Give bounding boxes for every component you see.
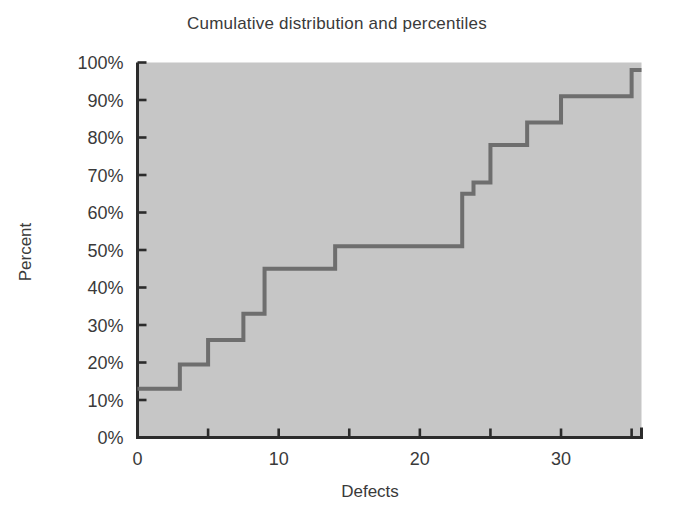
y-tick-label: 30% <box>87 316 123 336</box>
x-axis-title: Defects <box>341 482 399 501</box>
y-axis-title: Percent <box>16 222 35 281</box>
y-tick-label: 90% <box>87 91 123 111</box>
y-axis-tick-labels: 0%10%20%30%40%50%60%70%80%90%100% <box>77 53 123 448</box>
y-tick-label: 10% <box>87 391 123 411</box>
x-tick-label: 0 <box>132 449 142 469</box>
y-tick-label: 50% <box>87 241 123 261</box>
y-tick-label: 70% <box>87 166 123 186</box>
x-tick-label: 20 <box>410 449 430 469</box>
y-tick-label: 100% <box>77 53 123 73</box>
x-tick-label: 10 <box>269 449 289 469</box>
y-tick-label: 20% <box>87 353 123 373</box>
chart-page: Cumulative distribution and percentiles … <box>0 0 674 522</box>
y-tick-label: 60% <box>87 203 123 223</box>
plot-bg-rect <box>138 63 642 438</box>
y-tick-label: 0% <box>97 428 123 448</box>
y-tick-label: 80% <box>87 128 123 148</box>
plot-background <box>138 63 642 438</box>
y-tick-label: 40% <box>87 278 123 298</box>
chart-plot-area: 0%10%20%30%40%50%60%70%80%90%100% 010203… <box>0 0 674 522</box>
x-axis-tick-labels: 0102030 <box>132 449 571 469</box>
x-tick-label: 30 <box>551 449 571 469</box>
